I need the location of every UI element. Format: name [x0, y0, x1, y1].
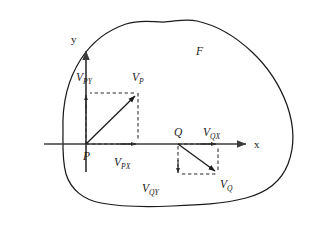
vp-label-sub: P: [138, 77, 144, 86]
vq-label-sub: Q: [227, 184, 233, 193]
point-q-label: Q: [174, 126, 183, 138]
vq-label: VQ: [220, 178, 233, 193]
figure-root: x y F P Q VPY VP VPX VQX VQY VQ: [0, 0, 313, 225]
vpy-label: VPY: [76, 71, 93, 86]
region-boundary: [63, 20, 293, 207]
vector-vp: [86, 96, 135, 144]
y-axis-label: y: [71, 33, 77, 45]
vp-label: VP: [132, 71, 144, 86]
vpx-label-sub: PX: [120, 162, 131, 171]
vqx-label: VQX: [203, 126, 221, 141]
vector-field-diagram: x y F P Q VPY VP VPX VQX VQY VQ: [0, 0, 313, 225]
region-label: F: [195, 45, 204, 57]
point-p-label: P: [82, 150, 90, 162]
vpx-label: VPX: [114, 156, 131, 171]
vqy-label-sub: QY: [149, 188, 159, 197]
vector-vq: [178, 144, 215, 171]
x-axis-label: x: [254, 138, 260, 150]
vqy-label: VQY: [142, 182, 160, 197]
vpy-label-sub: PY: [82, 77, 93, 86]
vqx-label-sub: QX: [210, 132, 220, 141]
